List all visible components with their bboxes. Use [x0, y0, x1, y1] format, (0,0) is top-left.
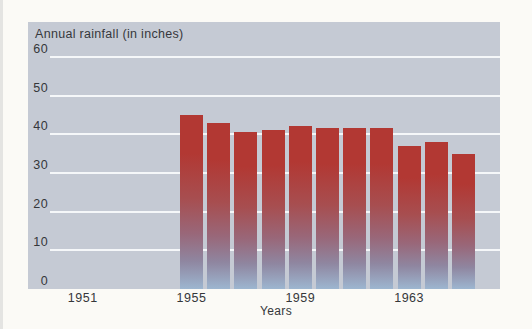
bar-1962 — [370, 128, 393, 289]
chart-title: Annual rainfall (in inches) — [35, 27, 183, 41]
gridline-50 — [50, 95, 500, 97]
bar-1955 — [180, 115, 203, 289]
y-axis-label-0: 0 — [31, 275, 48, 288]
bar-1960 — [316, 128, 339, 289]
bar-1959 — [289, 126, 312, 289]
y-axis-label-50: 50 — [31, 82, 48, 95]
bar-1957 — [234, 132, 257, 289]
y-axis-label-10: 10 — [31, 236, 48, 249]
bar-1961 — [343, 128, 366, 289]
x-axis-label-1955: 1955 — [162, 291, 222, 305]
y-axis-label-40: 40 — [31, 120, 48, 133]
gridline-60 — [50, 56, 500, 58]
x-axis-label-1959: 1959 — [270, 291, 330, 305]
bar-1956 — [207, 123, 230, 289]
scan-edge-artifact — [0, 0, 3, 329]
bar-1958 — [262, 130, 285, 289]
y-axis-label-20: 20 — [31, 198, 48, 211]
x-axis-label-1963: 1963 — [379, 291, 439, 305]
x-axis-title: Years — [246, 304, 306, 318]
y-axis-label-60: 60 — [31, 43, 48, 56]
x-axis-label-1951: 1951 — [53, 291, 113, 305]
bar-1964 — [425, 142, 448, 289]
bar-1965 — [452, 154, 475, 289]
chart-panel: Annual rainfall (in inches) 010203040506… — [28, 22, 500, 289]
bar-1963 — [398, 146, 421, 289]
y-axis-label-30: 30 — [31, 159, 48, 172]
